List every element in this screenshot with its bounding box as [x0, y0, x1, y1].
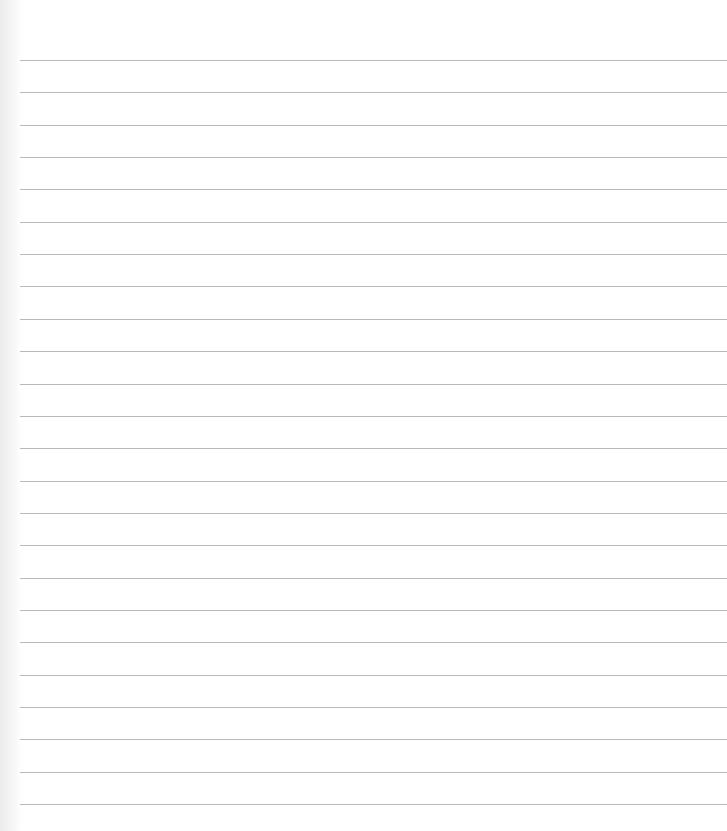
- ruled-line: [20, 675, 727, 676]
- ruled-line: [20, 804, 727, 805]
- paper-left-edge-shadow: [0, 0, 22, 831]
- ruled-line: [20, 254, 727, 255]
- lined-paper: [0, 0, 727, 831]
- ruled-line: [20, 92, 727, 93]
- ruled-line: [20, 125, 727, 126]
- ruled-line: [20, 416, 727, 417]
- ruled-line: [20, 222, 727, 223]
- ruled-line: [20, 351, 727, 352]
- ruled-line: [20, 448, 727, 449]
- ruled-line: [20, 286, 727, 287]
- ruled-line: [20, 60, 727, 61]
- ruled-line: [20, 772, 727, 773]
- ruled-line: [20, 545, 727, 546]
- ruled-line: [20, 739, 727, 740]
- ruled-line: [20, 610, 727, 611]
- ruled-line: [20, 707, 727, 708]
- ruled-line: [20, 157, 727, 158]
- ruled-line: [20, 578, 727, 579]
- ruled-line: [20, 319, 727, 320]
- ruled-line: [20, 481, 727, 482]
- ruled-line: [20, 384, 727, 385]
- ruled-line: [20, 189, 727, 190]
- ruled-line: [20, 513, 727, 514]
- ruled-line: [20, 642, 727, 643]
